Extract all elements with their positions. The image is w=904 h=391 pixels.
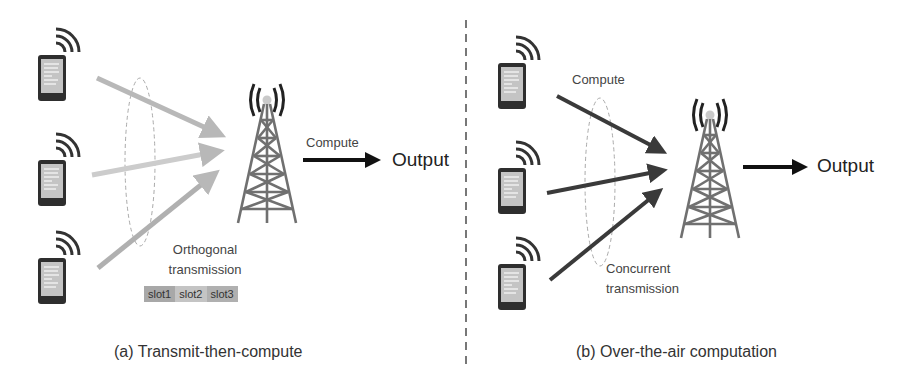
base-station-tower-icon xyxy=(238,84,296,223)
slot-3: slot3 xyxy=(207,286,238,302)
transmission-arrow xyxy=(97,78,217,133)
slot-1: slot1 xyxy=(144,286,175,302)
device-phone-icon xyxy=(498,142,539,214)
transmission-label-line2: transmission xyxy=(160,260,250,280)
transmission-label-a: Orthogonal transmission xyxy=(160,240,250,280)
base-station-tower-icon xyxy=(681,99,739,238)
time-slots: slot1 slot2 slot3 xyxy=(144,286,238,302)
transmission-arrow xyxy=(92,152,215,175)
device-phone-icon xyxy=(498,37,539,109)
transmission-label-line1: Concurrent xyxy=(606,259,696,279)
compute-label-a: Compute xyxy=(306,135,359,150)
transmission-label-line2: transmission xyxy=(606,279,696,299)
transmission-arrow xyxy=(557,96,660,150)
transmission-label-line1: Orthogonal xyxy=(160,240,250,260)
compute-label-b: Compute xyxy=(572,72,625,87)
slot-2: slot2 xyxy=(175,286,206,302)
device-phone-icon xyxy=(498,238,539,310)
caption-a: (a) Transmit-then-compute xyxy=(114,343,303,361)
device-phone-icon xyxy=(38,29,79,101)
device-phone-icon xyxy=(38,134,79,206)
output-label-b: Output xyxy=(817,155,874,177)
transmission-arrow xyxy=(547,171,660,193)
transmission-label-b: Concurrent transmission xyxy=(606,259,696,299)
caption-b: (b) Over-the-air computation xyxy=(576,343,777,361)
output-label-a: Output xyxy=(392,149,449,171)
device-phone-icon xyxy=(38,232,79,304)
diagram-canvas xyxy=(0,0,904,391)
